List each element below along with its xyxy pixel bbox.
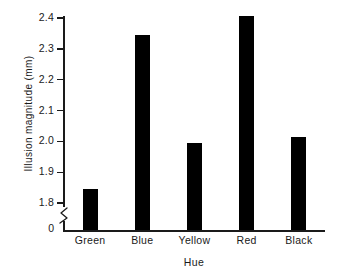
- bar-yellow: [187, 143, 202, 230]
- y-tick-mark: [57, 110, 64, 111]
- y-tick-label: 2.2: [12, 73, 54, 85]
- axis-break-icon: [58, 206, 72, 226]
- y-tick-label: 1.8: [12, 196, 54, 208]
- y-tick-mark: [57, 79, 64, 80]
- bar-black: [291, 137, 306, 230]
- y-tick-mark: [57, 17, 64, 18]
- y-axis-zero-label: 0: [12, 222, 54, 234]
- x-axis-line: [63, 230, 325, 232]
- y-tick-mark: [57, 48, 64, 49]
- bar-green: [83, 189, 98, 230]
- y-tick-label: 2.1: [12, 104, 54, 116]
- y-tick-label: 2.4: [12, 11, 54, 23]
- y-tick-mark: [57, 141, 64, 142]
- y-tick-label: 1.9: [12, 165, 54, 177]
- bar-blue: [135, 35, 150, 230]
- y-tick-mark: [57, 202, 64, 203]
- y-tick-label: 2.3: [12, 42, 54, 54]
- x-tick-label-black: Black: [259, 234, 338, 246]
- bar-red: [239, 16, 254, 230]
- y-tick-mark: [57, 172, 64, 173]
- bar-chart: Illusion magnitude (mm) 1.81.92.02.12.22…: [0, 0, 338, 277]
- y-tick-label: 2.0: [12, 134, 54, 146]
- x-axis-title: Hue: [63, 256, 325, 268]
